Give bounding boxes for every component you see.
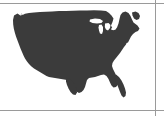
us-map-figure	[8, 6, 150, 108]
screenshot-canvas	[0, 0, 164, 116]
chesapeake-bay-notch-shape	[126, 43, 128, 47]
bottom-divider-rule	[0, 110, 164, 111]
right-divider-rule	[155, 0, 156, 116]
top-divider-rule	[0, 3, 164, 4]
maine-tip-shape	[132, 12, 140, 21]
great-salt-lake-speck-shape	[17, 61, 21, 64]
us-landmass-group	[13, 10, 140, 97]
us-map-svg	[8, 6, 150, 108]
